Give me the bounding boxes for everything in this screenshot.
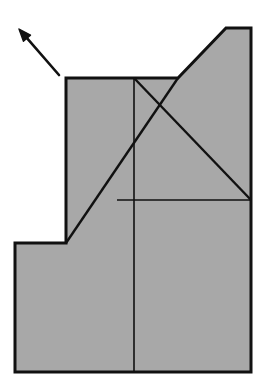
technical-drawing-figure [0,0,266,389]
drawing-canvas [0,0,266,389]
